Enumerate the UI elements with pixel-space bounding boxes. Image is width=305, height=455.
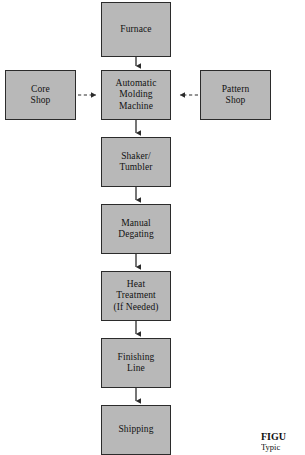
node-shipping: Shipping (101, 405, 171, 455)
figure-caption: FIGU Typic (261, 431, 305, 452)
figure-caption-subtitle: Typic (261, 442, 305, 452)
node-pattern-shop: Pattern Shop (200, 70, 271, 120)
node-heat-treatment: Heat Treatment (If Needed) (101, 271, 171, 321)
node-furnace: Furnace (101, 2, 171, 57)
node-manual-degating: Manual Degating (101, 204, 171, 254)
node-shaker-tumbler: Shaker/ Tumbler (101, 137, 171, 187)
node-automatic-molding-machine: Automatic Molding Machine (101, 70, 171, 120)
figure-caption-title: FIGU (261, 431, 305, 442)
node-finishing-line: Finishing Line (101, 338, 171, 388)
node-core-shop: Core Shop (5, 70, 76, 120)
